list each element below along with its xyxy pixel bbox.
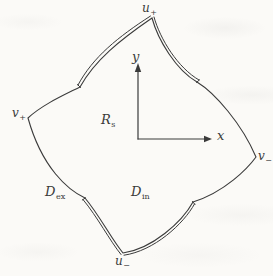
label-domain-exterior-main: D: [45, 184, 55, 199]
label-y-axis: y: [132, 50, 139, 63]
label-v-plus-sub: +: [19, 113, 26, 122]
double-line-lower-right: [124, 204, 195, 255]
label-v-plus-main: v: [12, 106, 19, 120]
label-y-axis-main: y: [132, 49, 139, 64]
label-domain-interior-main: D: [131, 184, 141, 199]
label-v-minus-sub: −: [265, 156, 272, 165]
label-region-rs: Rs: [101, 113, 115, 126]
label-domain-exterior-sub: ex: [56, 192, 65, 201]
label-v-minus-main: v: [258, 149, 265, 163]
label-region-rs-main: R: [101, 112, 111, 127]
label-v-minus: v−: [258, 150, 272, 162]
label-x-axis: x: [217, 129, 224, 142]
label-region-rs-sub: s: [111, 120, 115, 129]
label-domain-interior-sub: in: [142, 192, 150, 201]
label-x-axis-main: x: [217, 128, 224, 143]
y-axis-arrowhead: [135, 63, 141, 72]
double-line-lower-left: [83, 200, 121, 255]
label-u-minus-sub: −: [123, 261, 130, 270]
label-domain-interior: Din: [131, 185, 150, 198]
label-u-minus-main: u: [115, 254, 123, 268]
double-line-cap-lower-left: [82, 198, 85, 200]
region-diagram-svg: [0, 0, 273, 276]
label-u-plus-sub: +: [150, 8, 157, 17]
label-v-plus: v+: [12, 107, 26, 119]
label-u-plus: u+: [142, 2, 157, 14]
figure-region-diagram: u+ y v+ Rs x v− Dex Din u−: [0, 0, 273, 276]
label-u-plus-main: u: [142, 1, 150, 15]
label-u-minus: u−: [115, 255, 130, 267]
x-axis-arrowhead: [204, 136, 212, 142]
label-domain-exterior: Dex: [45, 185, 65, 198]
double-line-upper-right: [154, 17, 199, 80]
